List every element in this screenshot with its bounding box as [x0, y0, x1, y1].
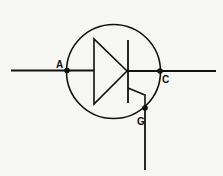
cathode-junction-dot	[157, 68, 163, 74]
anode-junction-dot	[64, 68, 70, 74]
gate-junction-dot	[142, 105, 148, 111]
diode-triangle	[94, 39, 127, 104]
gate-connection	[128, 88, 145, 108]
cathode-label: C	[162, 74, 169, 85]
gate-label: G	[137, 116, 145, 127]
scr-symbol-diagram: A C G	[0, 0, 223, 176]
anode-label: A	[56, 59, 63, 70]
